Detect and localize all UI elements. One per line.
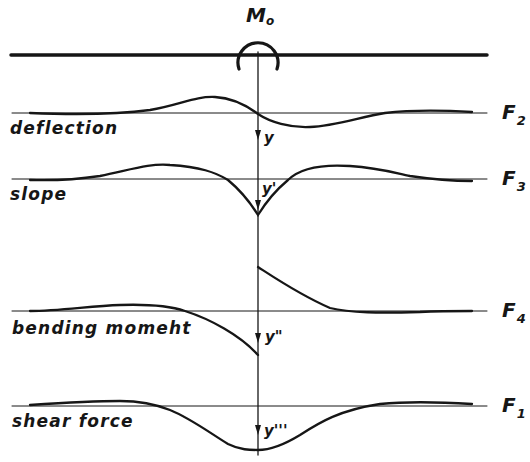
- shear-force-function-label: F1: [502, 393, 526, 421]
- bending-moment-axis-label: y": [265, 328, 283, 346]
- bending-moment-function-label: F4: [502, 298, 526, 326]
- bending-moment-plot: [12, 267, 487, 355]
- slope-label: slope: [10, 184, 67, 204]
- bending-moment-curve-right: [258, 267, 472, 313]
- deflection-label: deflection: [10, 118, 118, 138]
- slope-curve: [30, 165, 472, 215]
- slope-axis-label: y': [262, 180, 276, 198]
- function-symbol: F: [502, 298, 516, 322]
- function-symbol: F: [502, 393, 516, 417]
- arrow-down-icon: [255, 425, 261, 435]
- shear-force-label: shear force: [12, 411, 134, 431]
- function-subscript: 3: [517, 179, 526, 194]
- slope-function-label: F3: [502, 166, 526, 194]
- bending-moment-label: bending momeht: [12, 318, 192, 338]
- function-symbol: F: [502, 100, 516, 124]
- slope-plot: [12, 165, 487, 215]
- function-subscript: 4: [517, 311, 526, 326]
- deflection-function-label: F2: [502, 100, 526, 128]
- shear-force-axis-label: y''': [264, 422, 288, 440]
- arrow-down-icon: [255, 333, 261, 343]
- beam-diagram: [0, 0, 530, 462]
- function-subscript: 2: [517, 113, 526, 128]
- moment-subscript: o: [266, 14, 274, 28]
- moment-label: Mo: [246, 3, 274, 28]
- deflection-axis-label: y: [264, 129, 274, 147]
- function-subscript: 1: [517, 406, 526, 421]
- function-symbol: F: [502, 166, 516, 190]
- arrow-down-icon: [255, 130, 261, 140]
- arrow-down-icon: [255, 200, 261, 210]
- moment-symbol: M: [246, 3, 266, 27]
